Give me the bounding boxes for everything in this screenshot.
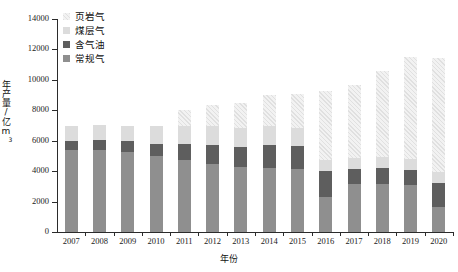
bar-2020	[432, 19, 445, 232]
y-axis-tick-label: 4000	[8, 165, 49, 175]
bar-segment-煤层气	[234, 128, 247, 147]
bar-segment-煤层气	[121, 126, 134, 142]
bar-segment-页岩气	[376, 71, 389, 158]
bar-2010	[150, 19, 163, 232]
y-axis-tick-label: 14000	[8, 13, 49, 23]
bar-segment-煤层气	[178, 126, 191, 143]
bar-segment-煤层气	[65, 126, 78, 140]
bar-2012	[206, 19, 219, 232]
bar-segment-含气油	[206, 145, 219, 164]
bar-segment-常规气	[376, 184, 389, 232]
stacked-bar-chart: 02000400060008000100001200014000 2007200…	[0, 0, 458, 272]
bar-segment-含气油	[376, 168, 389, 184]
bar-2011	[178, 19, 191, 232]
bar-segment-常规气	[404, 185, 417, 232]
x-axis-tick-label: 2018	[366, 236, 398, 246]
bar-2015	[291, 19, 304, 232]
bar-segment-常规气	[65, 150, 78, 232]
bar-segment-常规气	[93, 150, 106, 232]
bar-segment-页岩气	[206, 105, 219, 126]
y-axis-tick-label: 2000	[8, 196, 49, 206]
x-axis-tick-label: 2020	[423, 236, 455, 246]
legend-swatch-tight	[63, 41, 70, 48]
bar-segment-含气油	[234, 147, 247, 168]
bar-segment-常规气	[263, 168, 276, 232]
bar-segment-含气油	[178, 144, 191, 161]
bar-2017	[348, 19, 361, 232]
legend-swatch-conventional	[63, 55, 70, 62]
bar-2009	[121, 19, 134, 232]
bar-2019	[404, 19, 417, 232]
bar-segment-煤层气	[348, 158, 361, 169]
x-axis-tick-label: 2010	[140, 236, 172, 246]
bar-segment-含气油	[150, 144, 163, 156]
bar-segment-煤层气	[376, 157, 389, 168]
bar-segment-常规气	[121, 152, 134, 232]
y-axis-title-text: 年产量/亿m	[1, 80, 11, 136]
bar-segment-煤层气	[432, 172, 445, 183]
y-axis-tick-label: 12000	[8, 43, 49, 53]
bar-segment-常规气	[206, 164, 219, 232]
bar-segment-页岩气	[404, 57, 417, 159]
bar-segment-含气油	[348, 169, 361, 184]
bar-segment-页岩气	[319, 91, 332, 161]
x-axis-tick-label: 2008	[83, 236, 115, 246]
plot-area	[57, 19, 453, 232]
bar-segment-含气油	[291, 146, 304, 169]
bar-2016	[319, 19, 332, 232]
x-axis-tick-label: 2011	[168, 236, 200, 246]
bar-segment-页岩气	[432, 58, 445, 172]
bar-segment-页岩气	[178, 110, 191, 127]
bar-segment-页岩气	[263, 95, 276, 126]
bar-segment-页岩气	[291, 94, 304, 127]
legend-swatch-cbm	[63, 27, 70, 34]
bar-segment-含气油	[121, 141, 134, 152]
legend-item-含气油[interactable]: 含气油	[63, 38, 105, 50]
y-axis-title: 年产量/亿m3	[2, 80, 14, 143]
bar-segment-常规气	[234, 167, 247, 232]
bar-segment-常规气	[291, 169, 304, 232]
legend-swatch-shale	[63, 13, 70, 20]
x-axis-tick-label: 2012	[197, 236, 229, 246]
bar-2013	[234, 19, 247, 232]
x-axis-tick-label: 2013	[225, 236, 257, 246]
x-axis-tick-label: 2019	[395, 236, 427, 246]
legend-item-常规气[interactable]: 常规气	[63, 52, 105, 64]
bar-2014	[263, 19, 276, 232]
bar-segment-常规气	[348, 184, 361, 232]
bar-segment-含气油	[432, 183, 445, 207]
y-axis-tick-label: 10000	[8, 74, 49, 84]
bar-segment-常规气	[319, 197, 332, 232]
bar-segment-煤层气	[206, 126, 219, 144]
bar-segment-常规气	[178, 160, 191, 232]
chart-legend: 页岩气煤层气含气油常规气	[63, 10, 105, 64]
bar-segment-页岩气	[234, 103, 247, 127]
bar-segment-常规气	[150, 156, 163, 232]
x-axis-tick-label: 2009	[112, 236, 144, 246]
x-axis-tick-label: 2014	[253, 236, 285, 246]
bar-segment-含气油	[263, 145, 276, 168]
y-axis-title-superscript: 3	[7, 136, 14, 143]
bar-segment-煤层气	[319, 160, 332, 171]
bar-segment-页岩气	[348, 85, 361, 158]
x-axis-tick-label: 2015	[281, 236, 313, 246]
bar-segment-煤层气	[263, 126, 276, 145]
y-axis-tick	[52, 232, 57, 233]
legend-label: 常规气	[75, 51, 105, 65]
legend-item-煤层气[interactable]: 煤层气	[63, 24, 105, 36]
legend-label: 页岩气	[75, 9, 105, 23]
bar-segment-含气油	[404, 170, 417, 185]
bar-segment-煤层气	[291, 128, 304, 146]
legend-label: 煤层气	[75, 23, 105, 37]
x-axis-tick-label: 2007	[55, 236, 87, 246]
bar-2018	[376, 19, 389, 232]
y-axis-tick-label: 8000	[8, 104, 49, 114]
bar-segment-煤层气	[150, 126, 163, 144]
x-axis-tick-label: 2017	[338, 236, 370, 246]
legend-item-页岩气[interactable]: 页岩气	[63, 10, 105, 22]
y-axis-tick-label: 6000	[8, 135, 49, 145]
bar-segment-常规气	[432, 207, 445, 232]
x-axis-tick-label: 2016	[310, 236, 342, 246]
bar-segment-煤层气	[93, 125, 106, 140]
legend-label: 含气油	[75, 37, 105, 51]
